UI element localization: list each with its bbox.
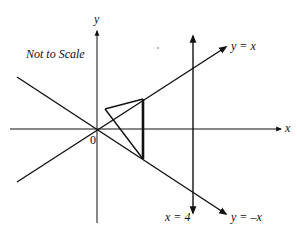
not-to-scale-note: Not to Scale (26, 48, 85, 60)
origin-label: 0 (90, 134, 96, 146)
line-y-eq-neg-x (17, 77, 226, 214)
line-y-eq-x (17, 47, 226, 182)
y-axis-label: y (94, 13, 99, 25)
stray-dot (157, 47, 158, 48)
label-y-eq-x: y = x (231, 40, 256, 52)
label-y-eq-neg-x: y = –x (231, 211, 262, 223)
diagram-canvas (0, 0, 297, 235)
label-x-eq-4: x = 4 (165, 211, 190, 223)
coordinate-diagram: y Not to Scale y = x 0 x x = 4 y = –x (0, 0, 297, 235)
x-axis-label: x (285, 122, 290, 134)
